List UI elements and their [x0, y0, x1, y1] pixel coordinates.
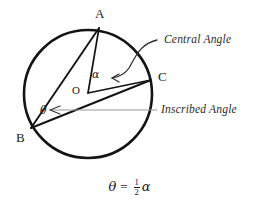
central-angle-callout-label: Central Angle — [164, 34, 231, 46]
theorem-formula: θ=12α — [0, 178, 259, 198]
circle-outline — [24, 30, 152, 158]
inscribed-angle-symbol: θ — [40, 105, 47, 116]
point-label-c: C — [158, 70, 167, 83]
chord-bc-line — [31, 80, 151, 128]
formula-numerator: 1 — [134, 178, 140, 187]
formula-alpha: α — [142, 179, 151, 194]
inscribed-angle-callout-label: Inscribed Angle — [161, 104, 237, 116]
point-label-b: B — [16, 131, 25, 144]
formula-equals: = — [116, 179, 131, 194]
central-angle-symbol: α — [92, 69, 99, 80]
center-label-o: O — [72, 85, 80, 96]
point-label-a: A — [95, 7, 104, 20]
formula-denominator: 2 — [134, 188, 140, 197]
formula-fraction: 12 — [134, 178, 140, 198]
inscribed-angle-figure: A B C O α θ Central Angle Inscribed Angl… — [0, 0, 259, 211]
central-angle-arrow-curve — [112, 40, 157, 78]
